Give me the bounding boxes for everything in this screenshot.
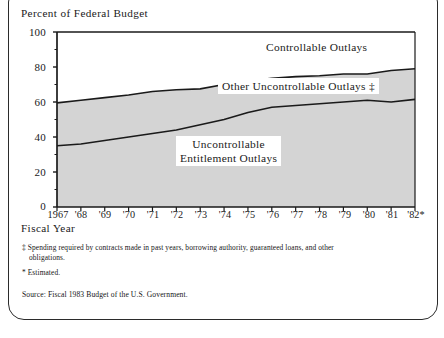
x-tick-75: '75 <box>236 209 262 220</box>
chart-plot-area <box>0 0 444 338</box>
x-tick-73: '73 <box>188 209 214 220</box>
x-tick-72: '72 <box>164 209 190 220</box>
x-tick-78: '78 <box>308 209 334 220</box>
x-tick-68: '68 <box>68 209 94 220</box>
source-line: Source: Fiscal 1983 Budget of the U.S. G… <box>22 290 188 300</box>
chart-figure: Percent of Federal Budget 100 80 60 40 2… <box>0 0 444 338</box>
annotation-entitlement-line2: Entitlement Outlays <box>180 152 277 164</box>
footnote-estimated: * Estimated. <box>22 268 60 278</box>
x-tick-82: '82* <box>400 209 432 220</box>
x-tick-74: '74 <box>212 209 238 220</box>
annotation-entitlement-line1: Uncontrollable <box>192 138 265 150</box>
x-axis-title: Fiscal Year <box>21 222 75 234</box>
x-tick-77: '77 <box>284 209 310 220</box>
x-tick-71: '71 <box>140 209 166 220</box>
footnote-dagger: ‡ Spending required by contracts made in… <box>22 243 422 263</box>
x-tick-69: '69 <box>92 209 118 220</box>
annotation-uncontrollable-entitlement-outlays: Uncontrollable Entitlement Outlays <box>176 136 281 166</box>
footnote-dagger-line1: ‡ Spending required by contracts made in… <box>22 243 334 252</box>
x-tick-70: '70 <box>116 209 142 220</box>
x-tick-76: '76 <box>260 209 286 220</box>
annotation-controllable-outlays: Controllable Outlays <box>262 39 371 55</box>
footnote-dagger-line2: obligations. <box>22 253 422 263</box>
x-tick-79: '79 <box>332 209 358 220</box>
annotation-other-uncontrollable-outlays: Other Uncontrollable Outlays ‡ <box>218 78 379 94</box>
